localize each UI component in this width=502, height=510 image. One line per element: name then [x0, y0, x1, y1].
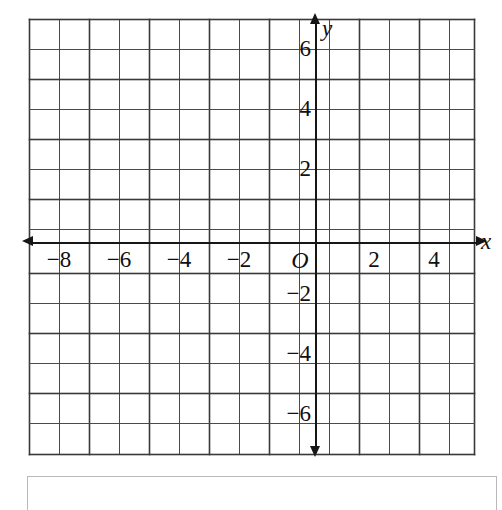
gridline-vertical	[59, 19, 60, 455]
gridline-vertical	[389, 19, 390, 455]
x-tick-label-minus-6: −6	[99, 248, 139, 271]
gridline-vertical	[359, 19, 360, 455]
gridline-horizontal	[29, 454, 475, 455]
y-axis-line	[315, 22, 317, 453]
x-axis-line	[30, 242, 479, 244]
x-tick-label-4: 4	[414, 248, 454, 271]
gridline-vertical	[474, 19, 475, 455]
y-axis-label: y	[322, 17, 332, 40]
x-axis-label: x	[481, 230, 491, 253]
x-tick-label-minus-8: −8	[39, 248, 79, 271]
gridline-vertical	[209, 19, 210, 455]
gridline-vertical	[149, 19, 150, 455]
gridline-vertical	[419, 19, 420, 455]
y-tick-label-6: 6	[271, 37, 311, 60]
gridline-vertical	[239, 19, 240, 455]
gridline-horizontal	[29, 273, 475, 274]
gridline-vertical	[269, 19, 270, 455]
origin-label: O	[287, 248, 313, 272]
gridline-horizontal	[29, 19, 475, 20]
gridline-vertical	[449, 19, 450, 455]
gridline-vertical	[119, 19, 120, 455]
y-tick-label-2: 2	[271, 157, 311, 180]
gridline-horizontal	[29, 333, 475, 334]
gridline-horizontal	[29, 109, 475, 110]
gridline-vertical	[89, 19, 90, 455]
x-axis-left-arrow-icon	[22, 236, 33, 246]
gridline-horizontal	[29, 199, 475, 200]
gridline-horizontal	[29, 363, 475, 364]
answer-box[interactable]	[27, 476, 497, 510]
gridline-horizontal	[29, 139, 475, 140]
x-tick-label-minus-2: −2	[219, 248, 259, 271]
gridline-vertical	[329, 19, 330, 455]
coordinate-plane: −8 −6 −4 −2 2 4 6 4 2 −2 −4 −6 O x y	[29, 19, 475, 455]
gridline-horizontal	[29, 393, 475, 394]
gridline-horizontal	[29, 423, 475, 424]
coordinate-grid-figure: −8 −6 −4 −2 2 4 6 4 2 −2 −4 −6 O x y	[0, 0, 502, 510]
y-tick-label-minus-2: −2	[271, 282, 311, 305]
gridline-horizontal	[29, 169, 475, 170]
gridline-vertical	[299, 19, 300, 455]
y-tick-label-minus-4: −4	[271, 342, 311, 365]
gridline-vertical	[179, 19, 180, 455]
gridline-horizontal	[29, 49, 475, 50]
gridline-horizontal	[29, 229, 475, 230]
y-axis-up-arrow-icon	[310, 13, 320, 24]
y-tick-label-4: 4	[271, 97, 311, 120]
x-tick-label-2: 2	[354, 248, 394, 271]
gridline-horizontal	[29, 79, 475, 80]
y-tick-label-minus-6: −6	[271, 402, 311, 425]
gridline-horizontal	[29, 303, 475, 304]
y-axis-down-arrow-icon	[310, 446, 320, 457]
x-tick-label-minus-4: −4	[159, 248, 199, 271]
